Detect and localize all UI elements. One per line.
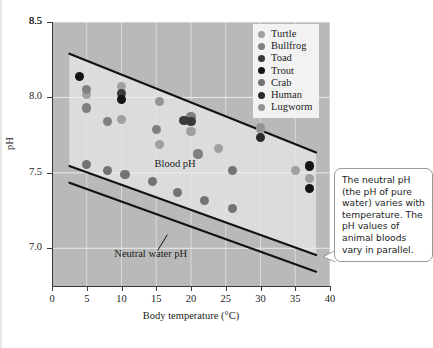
data-point-crab xyxy=(120,170,129,179)
legend-swatch-icon xyxy=(258,79,265,86)
x-tick xyxy=(261,286,262,291)
y-tick-top xyxy=(47,22,52,23)
legend-item-bullfrog[interactable]: Bullfrog xyxy=(258,40,312,52)
legend-item-toad[interactable]: Toad xyxy=(258,52,312,64)
x-tick-label: 10 xyxy=(110,293,134,304)
callout-box: The neutral pH (the pH of pure water) va… xyxy=(334,168,433,262)
y-tick-label: 7.5 xyxy=(18,166,42,177)
x-tick-label: 0 xyxy=(40,293,64,304)
x-tick-label: 35 xyxy=(283,293,307,304)
x-tick-label: 20 xyxy=(179,293,203,304)
legend-item-trout[interactable]: Trout xyxy=(258,65,312,77)
x-tick xyxy=(295,286,296,291)
y-axis-title: pH xyxy=(4,137,15,150)
data-point-bullfrog xyxy=(82,85,91,94)
legend-item-label: Human xyxy=(271,89,302,101)
legend-item-label: Bullfrog xyxy=(271,40,307,52)
data-point-trout xyxy=(305,161,314,170)
legend: TurtleBullfrogToadTroutCrabHumanLugworm xyxy=(253,24,319,118)
legend-item-human[interactable]: Human xyxy=(258,89,312,101)
x-axis-title: Body temperature (°C) xyxy=(52,310,330,321)
y-tick-label: 8.0 xyxy=(18,90,42,101)
legend-item-lugworm[interactable]: Lugworm xyxy=(258,101,312,113)
data-point-turtle xyxy=(186,127,195,136)
x-tick xyxy=(191,286,192,291)
y-axis-line xyxy=(52,22,53,286)
legend-item-label: Toad xyxy=(271,52,292,64)
legend-item-label: Crab xyxy=(271,77,291,89)
data-point-crab xyxy=(173,188,182,197)
data-point-lugworm xyxy=(155,97,164,106)
x-tick-label: 5 xyxy=(75,293,99,304)
legend-swatch-icon xyxy=(258,43,265,50)
y-tick xyxy=(47,248,52,249)
legend-item-crab[interactable]: Crab xyxy=(258,77,312,89)
x-tick-label: 15 xyxy=(144,293,168,304)
data-point-trout xyxy=(305,184,314,193)
data-point-turtle xyxy=(305,174,314,183)
y-tick-label: 7.0 xyxy=(18,241,42,252)
data-point-bullfrog xyxy=(152,125,161,134)
x-tick xyxy=(52,286,53,291)
x-tick xyxy=(226,286,227,291)
data-point-human xyxy=(256,133,265,142)
x-tick-label: 30 xyxy=(249,293,273,304)
data-point-turtle xyxy=(155,140,164,149)
y-tick xyxy=(47,173,52,174)
legend-swatch-icon xyxy=(258,31,265,38)
data-point-turtle xyxy=(117,115,126,124)
x-tick xyxy=(87,286,88,291)
data-point-toad xyxy=(186,117,195,126)
legend-swatch-icon xyxy=(258,67,265,74)
legend-swatch-icon xyxy=(258,92,265,99)
y-tick xyxy=(47,97,52,98)
blood-ph-label: Blood pH xyxy=(155,158,196,169)
page-edge-rule xyxy=(0,0,2,348)
x-tick-label: 25 xyxy=(214,293,238,304)
legend-swatch-icon xyxy=(258,104,265,111)
legend-item-label: Trout xyxy=(271,65,294,77)
y-tick-label: 8.5 xyxy=(18,15,42,26)
x-tick-label: 40 xyxy=(318,293,342,304)
data-point-bullfrog xyxy=(82,103,91,112)
neutral-water-ph-label: Neutral water pH xyxy=(114,248,187,259)
legend-item-label: Lugworm xyxy=(271,101,312,113)
x-tick xyxy=(156,286,157,291)
x-tick xyxy=(122,286,123,291)
legend-item-label: Turtle xyxy=(271,28,296,40)
data-point-crab xyxy=(148,177,157,186)
legend-swatch-icon xyxy=(258,55,265,62)
legend-item-turtle[interactable]: Turtle xyxy=(258,28,312,40)
x-tick xyxy=(330,286,331,291)
data-point-turtle xyxy=(291,166,300,175)
